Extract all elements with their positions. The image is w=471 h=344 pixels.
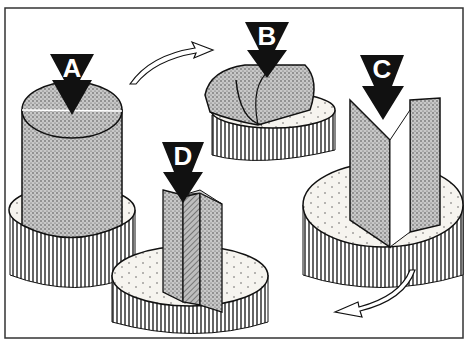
step-label-d: D: [174, 141, 193, 171]
flow-arrow-a-to-b: [130, 42, 213, 84]
log-d: [163, 190, 222, 312]
step-label-b: B: [258, 21, 277, 51]
step-label-c: C: [373, 54, 392, 84]
step-marker-c: C: [360, 54, 404, 120]
log-c: [350, 98, 440, 247]
step-label-a: A: [63, 53, 82, 83]
wood-splitting-diagram: A B C D: [0, 0, 471, 344]
